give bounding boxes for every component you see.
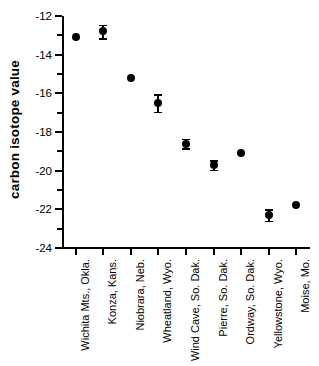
x-axis-label-text: Konza, Kans.: [107, 259, 118, 324]
x-axis-label-text: Ordway, So. Dak.: [245, 259, 256, 344]
x-axis-label-text: Moise, Mo.: [300, 259, 311, 313]
data-point: [127, 74, 135, 82]
x-axis-label-text: Wind Cave, So. Dak.: [190, 259, 201, 361]
error-bar-cap: [154, 94, 162, 96]
data-point: [99, 27, 107, 35]
x-tick: [185, 249, 187, 255]
x-tick: [130, 249, 132, 255]
data-point: [182, 140, 190, 148]
error-bar-cap: [210, 170, 218, 172]
x-tick: [102, 249, 104, 255]
x-tick: [240, 249, 242, 255]
y-tick-major: [55, 54, 62, 56]
error-bar-cap: [99, 38, 107, 40]
error-bar-cap: [182, 148, 190, 150]
plot-area: [62, 16, 310, 248]
data-point: [265, 211, 273, 219]
y-tick-major: [55, 131, 62, 133]
y-tick-label: -24: [35, 242, 52, 254]
y-axis-title-text: carbon isotope value: [8, 59, 23, 198]
data-point: [237, 149, 245, 157]
x-axis-label-text: Wheatland, Wyo.: [162, 259, 173, 343]
y-tick-label: -14: [35, 49, 52, 61]
y-tick-major: [55, 92, 62, 94]
data-point: [154, 99, 162, 107]
y-tick-label: -12: [35, 10, 52, 22]
error-bar-cap: [99, 25, 107, 27]
data-point: [292, 201, 300, 209]
x-axis-label-text: Yellowstone, Wyo.: [273, 259, 284, 348]
y-tick-label: -18: [35, 126, 52, 138]
y-tick-label: -20: [35, 165, 52, 177]
y-tick-major: [55, 247, 62, 249]
x-axis-label-text: Pierre, So. Dak.: [218, 259, 229, 337]
x-axis-label-text: Niobrara, Neb.: [135, 259, 146, 331]
y-tick-label: -22: [35, 203, 52, 215]
y-tick-label: -16: [35, 87, 52, 99]
y-tick-major: [55, 170, 62, 172]
x-axis-label-text: Wichita Mts., Okla.: [80, 259, 91, 351]
x-tick: [213, 249, 215, 255]
data-point: [210, 161, 218, 169]
y-tick-major: [55, 15, 62, 17]
x-tick: [157, 249, 159, 255]
data-point: [72, 33, 80, 41]
error-bar-cap: [265, 221, 273, 223]
x-tick: [75, 249, 77, 255]
error-bar-cap: [154, 112, 162, 114]
carbon-isotope-scatter-chart: carbon isotope value -12-14-16-18-20-22-…: [0, 0, 319, 366]
y-axis-title: carbon isotope value: [0, 0, 30, 258]
x-tick: [268, 249, 270, 255]
x-tick: [295, 249, 297, 255]
y-tick-major: [55, 208, 62, 210]
